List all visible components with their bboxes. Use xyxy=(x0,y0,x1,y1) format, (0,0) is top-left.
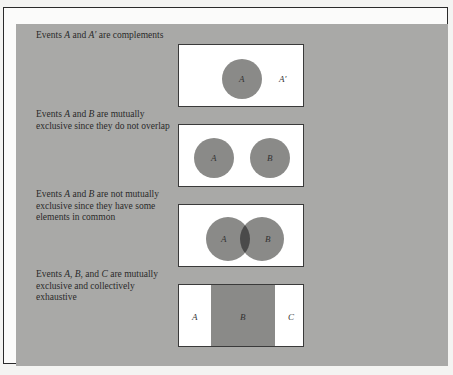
figure-panel: Events A and A′ are complements A A′ Eve… xyxy=(16,24,448,366)
label-b: B xyxy=(267,153,273,163)
caption-mutually-exclusive: Events A and B are mutually exclusive si… xyxy=(36,109,176,132)
venn-partition: A B C xyxy=(178,284,304,347)
label-a: A xyxy=(210,153,217,163)
caption-text: Events xyxy=(36,269,64,279)
label-c: C xyxy=(288,312,295,322)
caption-text: Events xyxy=(36,109,64,119)
caption-text: Events xyxy=(36,30,64,40)
label-b: B xyxy=(240,312,246,322)
venn-complements: A A′ xyxy=(178,44,304,107)
caption-overlapping: Events A and B are not mutually exclusiv… xyxy=(36,189,176,224)
caption-text: and xyxy=(70,30,88,40)
venn-complements-svg: A A′ xyxy=(179,45,304,107)
label-a: A xyxy=(191,312,198,322)
venn-disjoint: A B xyxy=(178,124,304,187)
caption-complements: Events A and A′ are complements xyxy=(36,30,176,42)
label-a-prime: A′ xyxy=(278,74,287,84)
label-b: B xyxy=(265,234,271,244)
caption-text: are complements xyxy=(96,30,163,40)
caption-text: and xyxy=(70,109,88,119)
venn-partition-svg: A B C xyxy=(179,285,304,347)
figure-frame: Events A and A′ are complements A A′ Eve… xyxy=(3,7,448,364)
label-a: A xyxy=(238,74,245,84)
caption-text: , and xyxy=(81,269,102,279)
label-a: A xyxy=(220,234,227,244)
caption-partition: Events A, B, and C are mutually exclusiv… xyxy=(36,269,176,304)
caption-text: and xyxy=(70,189,88,199)
caption-text: Events xyxy=(36,189,64,199)
venn-overlapping: A B xyxy=(178,204,304,267)
venn-disjoint-svg: A B xyxy=(179,125,304,187)
venn-overlapping-svg: A B xyxy=(179,205,304,267)
